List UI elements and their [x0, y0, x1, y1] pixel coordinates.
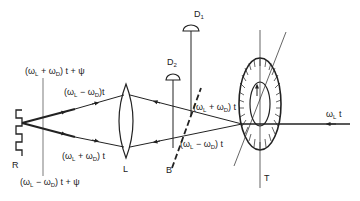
beam-splitter-label: B: [166, 165, 172, 175]
label-upper-grating-beam: (ωL − ωD)t: [64, 87, 105, 98]
detector-d1-label: D1: [194, 9, 205, 20]
grating-icon: [16, 110, 22, 156]
beams-near-grating: [22, 109, 75, 137]
beams-grating-to-lens: [75, 95, 124, 147]
target-label: T: [264, 173, 270, 183]
grating-label: R: [12, 160, 19, 170]
lens-label: L: [123, 164, 128, 174]
optical-diagram: R L D2 D1 B: [0, 0, 360, 201]
label-reflected-lower: (ωL − ωD) t + ψ: [20, 177, 80, 188]
beam-splitter-icon: [172, 88, 201, 168]
label-upper-target-beam: (ωL + ωD) t: [193, 102, 237, 113]
rotating-target-icon: [234, 30, 286, 188]
detector-d2-label: D2: [167, 57, 178, 68]
label-reflected-upper: (ωL + ωD) t + ψ: [25, 66, 85, 77]
label-lower-grating-beam: (ωL + ωD) t: [62, 151, 106, 162]
incident-beam-label: ωL t: [326, 109, 342, 120]
label-lower-target-beam: (ωL − ωD) t: [180, 139, 224, 150]
